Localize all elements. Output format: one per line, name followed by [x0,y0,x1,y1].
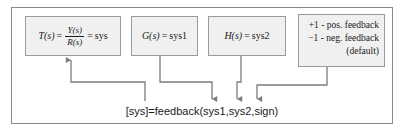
sign-default-line: (default) [305,45,379,58]
sign-negative-line: −1 - neg. feedback [305,32,379,45]
transfer-function-fraction: Y(s) R(s) [65,26,84,47]
sign-positive-line: +1 - pos. feedback [305,19,379,32]
feedback-path-equals: = [244,31,250,41]
figure-frame: T(s) = Y(s) R(s) = sys G(s) = sys1 H(s) [11,7,393,124]
transfer-function-equation: T(s) = Y(s) R(s) = sys [38,26,107,47]
feedback-path-rhs: sys2 [252,31,270,41]
feedback-path-box: H(s) = sys2 [208,16,286,56]
transfer-function-lhs: T(s) [38,31,54,41]
plant-equation: G(s) = sys1 [142,31,187,41]
figure-container: T(s) = Y(s) R(s) = sys G(s) = sys1 H(s) [0,0,405,136]
plant-box: G(s) = sys1 [131,16,198,56]
command-text: [sys]=feedback(sys1,sys2,sign) [12,105,392,117]
plant-rhs: sys1 [169,31,187,41]
transfer-function-rhs: sys [95,31,108,41]
transfer-function-equals-2: = [87,31,93,41]
sign-legend-box: +1 - pos. feedback −1 - neg. feedback (d… [298,14,385,67]
feedback-path-lhs: H(s) [224,31,242,41]
transfer-function-box: T(s) = Y(s) R(s) = sys [25,16,121,56]
transfer-function-denominator: R(s) [65,36,84,47]
transfer-function-equals: = [57,31,63,41]
feedback-path-equation: H(s) = sys2 [224,31,269,41]
plant-equals: = [162,31,168,41]
plant-lhs: G(s) [142,31,160,41]
transfer-function-numerator: Y(s) [65,26,84,36]
